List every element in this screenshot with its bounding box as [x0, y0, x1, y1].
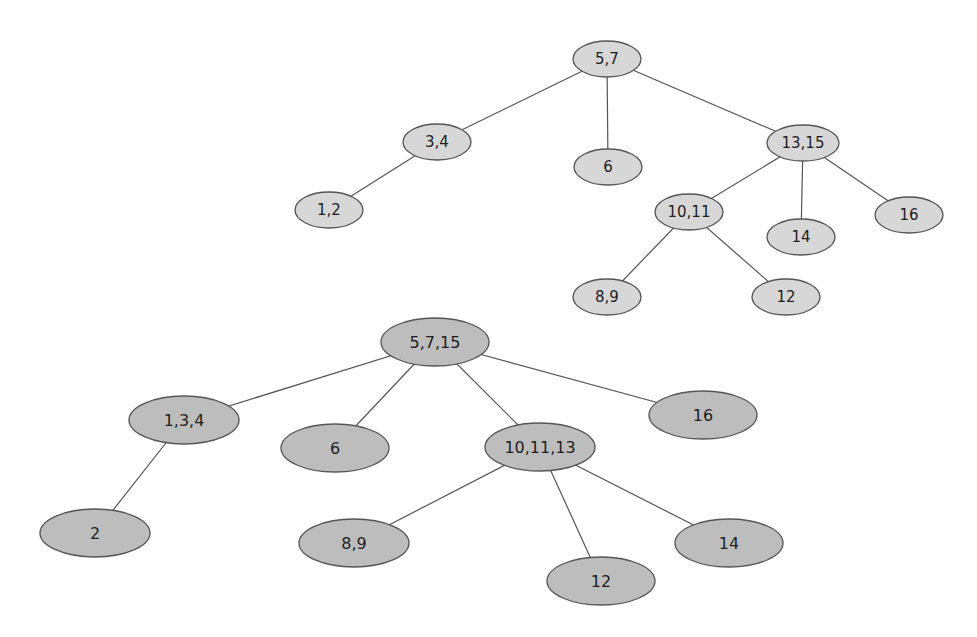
node-label: 10,11: [668, 203, 711, 221]
bottom-tree-node: 8,9: [299, 519, 409, 567]
bottom-tree-node: 12: [547, 557, 655, 605]
top-tree-node: 16: [875, 197, 943, 233]
top-tree-node: 8,9: [573, 279, 641, 315]
node-label: 13,15: [782, 134, 825, 152]
top-tree-node: 3,4: [403, 124, 471, 160]
top-tree-node: 14: [767, 219, 835, 255]
top-tree-node: 1,2: [295, 192, 363, 228]
node-label: 14: [791, 228, 810, 246]
bottom-tree-node: 14: [675, 519, 783, 567]
node-label: 2: [90, 524, 100, 543]
top-tree-node: 13,15: [767, 125, 839, 161]
node-label: 10,11,13: [504, 438, 575, 457]
top-tree-node: 12: [752, 279, 820, 315]
bottom-tree-node: 1,3,4: [129, 396, 239, 444]
node-label: 12: [591, 572, 611, 591]
node-label: 5,7: [595, 50, 619, 68]
top-tree-node: 6: [574, 149, 642, 185]
bottom-tree-node: 6: [281, 424, 389, 472]
node-label: 16: [693, 406, 713, 425]
node-label: 1,3,4: [164, 411, 205, 430]
node-label: 3,4: [425, 133, 449, 151]
bottom-tree-node: 2: [40, 509, 150, 557]
node-label: 16: [899, 206, 918, 224]
node-label: 6: [603, 158, 613, 176]
tree-diagram: 5,73,4613,151,210,1114168,912 5,7,151,3,…: [0, 0, 977, 637]
node-label: 8,9: [595, 288, 619, 306]
node-label: 6: [330, 439, 340, 458]
node-label: 8,9: [341, 534, 366, 553]
top-tree-node: 10,11: [655, 194, 723, 230]
bottom-tree-node: 10,11,13: [485, 423, 595, 471]
node-label: 14: [719, 534, 739, 553]
node-label: 5,7,15: [410, 333, 461, 352]
node-label: 1,2: [317, 201, 341, 219]
top-tree-node: 5,7: [573, 41, 641, 77]
bottom-tree-node: 16: [649, 391, 757, 439]
bottom-tree-node: 5,7,15: [381, 318, 489, 366]
node-label: 12: [776, 288, 795, 306]
